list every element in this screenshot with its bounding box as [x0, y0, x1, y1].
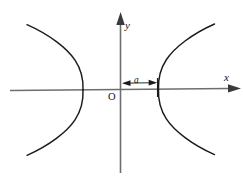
x-axis-label: x — [224, 72, 229, 83]
semi-axis-dimension — [122, 78, 158, 97]
left-branch-upper-arm — [27, 25, 83, 90]
y-axis-arrowhead — [116, 12, 125, 25]
y-axis — [116, 12, 125, 173]
x-axis-line — [10, 89, 229, 91]
semi-axis-left-arrowhead — [122, 80, 131, 86]
figure-canvas — [0, 0, 243, 179]
right-branch-lower-arm — [158, 89, 214, 154]
right-branch-upper-arm — [158, 24, 214, 89]
left-branch-lower-arm — [27, 90, 83, 155]
x-axis-arrowhead — [228, 84, 241, 92]
x-axis — [10, 84, 241, 92]
origin-label: O — [108, 92, 116, 103]
hyperbola-figure: y x O a — [0, 0, 243, 179]
semi-axis-right-arrowhead — [149, 80, 158, 86]
y-axis-label: y — [125, 20, 130, 31]
semi-axis-length-label: a — [134, 76, 139, 86]
